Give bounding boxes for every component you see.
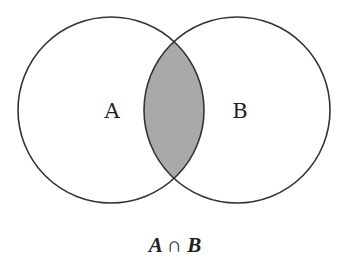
set-b-label: B [232,99,247,123]
set-a-label: A [103,99,120,123]
venn-diagram: A B A ∩ B [0,0,341,271]
diagram-caption: A ∩ B [147,233,201,257]
